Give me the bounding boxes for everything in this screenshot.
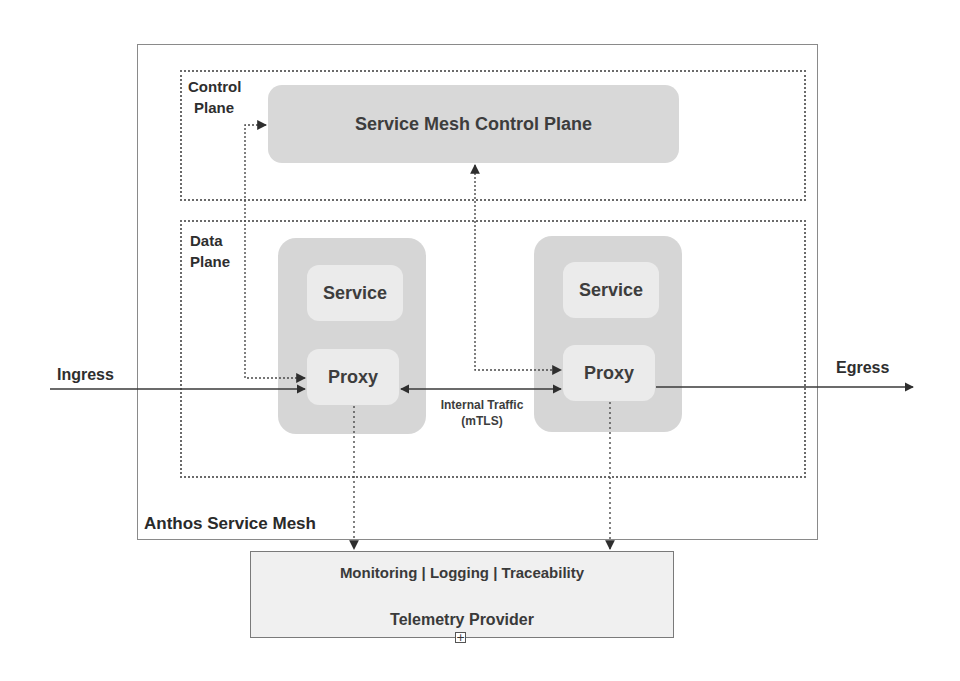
anthos-service-mesh-label: Anthos Service Mesh (144, 514, 316, 534)
internal-traffic-label-line1: Internal Traffic (420, 397, 544, 413)
expand-icon[interactable]: + (455, 632, 466, 643)
telemetry-provider-node[interactable]: Monitoring | Logging | Traceability Tele… (250, 551, 674, 638)
ingress-label: Ingress (57, 366, 114, 384)
control-to-left-proxy-link (245, 125, 305, 378)
control-to-right-proxy-link (475, 165, 561, 370)
egress-label: Egress (836, 359, 889, 377)
internal-traffic-label: Internal Traffic (mTLS) (420, 397, 544, 429)
internal-traffic-label-line2: (mTLS) (420, 413, 544, 429)
telemetry-capabilities: Monitoring | Logging | Traceability (251, 564, 673, 581)
telemetry-title: Telemetry Provider (251, 611, 673, 629)
